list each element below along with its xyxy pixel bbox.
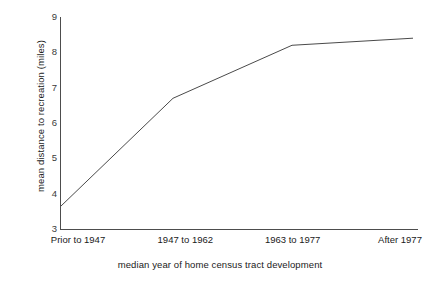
x-tick-label: 1963 to 1977 xyxy=(265,233,320,247)
x-axis-tick-labels: Prior to 19471947 to 19621963 to 1977Aft… xyxy=(0,233,440,249)
x-axis-title: median year of home census tract develop… xyxy=(0,258,440,272)
x-tick-label: 1947 to 1962 xyxy=(158,233,213,247)
x-tick-label: Prior to 1947 xyxy=(51,233,105,247)
x-tick-label: After 1977 xyxy=(378,233,422,247)
line-chart: mean distance to recreation (miles) 9876… xyxy=(0,0,440,287)
series-line-mean-distance xyxy=(61,38,413,206)
